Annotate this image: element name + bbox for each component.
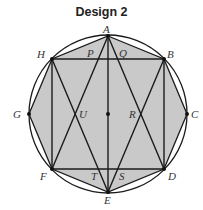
label-A: A xyxy=(102,23,110,35)
vertex-dot-D xyxy=(162,167,166,171)
label-R: R xyxy=(128,108,136,120)
vertex-dot-C xyxy=(185,112,189,116)
label-C: C xyxy=(191,108,199,120)
label-Q: Q xyxy=(119,47,127,59)
label-B: B xyxy=(167,48,174,60)
label-U: U xyxy=(79,108,88,120)
geometry-diagram: A B C D E F G H P Q R S T U xyxy=(0,0,203,210)
vertex-dot-H xyxy=(50,57,54,61)
label-P: P xyxy=(86,47,94,59)
vertex-dot-G xyxy=(27,112,31,116)
center-dot xyxy=(106,112,110,116)
label-H: H xyxy=(36,48,46,60)
vertex-dot-B xyxy=(162,57,166,61)
label-T: T xyxy=(91,170,98,182)
label-S: S xyxy=(119,170,125,182)
label-E: E xyxy=(103,194,111,206)
vertex-dot-F xyxy=(50,167,54,171)
label-G: G xyxy=(13,108,21,120)
label-F: F xyxy=(39,170,47,182)
label-D: D xyxy=(167,170,176,182)
